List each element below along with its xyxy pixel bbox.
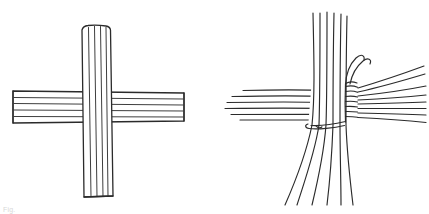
vertical-bundle <box>82 25 113 197</box>
vertical-bundle-outline <box>82 25 113 197</box>
binding-wrap-6 <box>346 111 358 112</box>
figure-root: .ink { fill: none; stroke: #2b2b2b; stro… <box>0 0 429 214</box>
cross-lashing-illustration: .ink { fill: none; stroke: #2b2b2b; stro… <box>0 0 429 214</box>
caption-fragment: Fig. <box>3 206 15 213</box>
binding-wrap-5 <box>346 106 358 107</box>
